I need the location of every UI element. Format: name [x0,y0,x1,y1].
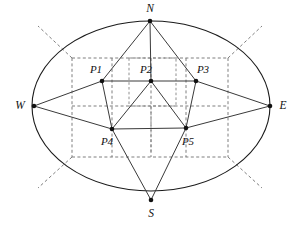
cardinal-label-w: W [15,99,26,111]
edge-W-P4 [34,106,112,129]
cardinal-label-s: S [148,207,154,219]
vertex-dot-n[interactable] [148,19,153,24]
diagram-canvas: NSWEP1P2P3P4P5 [0,0,295,230]
vertex-dot-p1[interactable] [100,79,105,84]
edge-W-P1 [34,81,102,106]
cardinal-label-e: E [278,99,286,111]
edge-P3-P5 [186,81,196,128]
edge-P2-P4 [112,81,151,129]
edge-N-P3 [150,21,196,81]
vertex-label-p5: P5 [181,135,195,147]
edge-P1-P4 [102,81,112,129]
ellipse-pentagon-diagram: NSWEP1P2P3P4P5 [0,0,295,230]
vertex-dot-p2[interactable] [149,79,154,84]
cardinal-label-n: N [145,2,155,14]
edge-S-P5 [151,128,186,200]
vertex-dot-w[interactable] [32,104,37,109]
edge-P4-P5 [112,128,186,129]
vertex-dot-s[interactable] [149,198,154,203]
ray-southeast [228,157,262,188]
vertex-dot-e[interactable] [268,104,273,109]
solid-edges-layer [34,21,270,200]
vertex-label-p1: P1 [89,63,102,75]
ray-southwest [38,157,72,188]
vertex-label-p4: P4 [100,135,114,147]
ray-northwest [38,26,72,58]
edge-P2-P5 [151,81,186,128]
vertex-label-p2: P2 [139,63,153,75]
vertex-dot-p4[interactable] [110,127,115,132]
vertex-dot-p5[interactable] [184,126,189,131]
vertex-dot-p3[interactable] [194,79,199,84]
vertex-label-p3: P3 [196,63,210,75]
labels-layer: NSWEP1P2P3P4P5 [15,2,286,219]
edge-E-P3 [196,81,270,106]
